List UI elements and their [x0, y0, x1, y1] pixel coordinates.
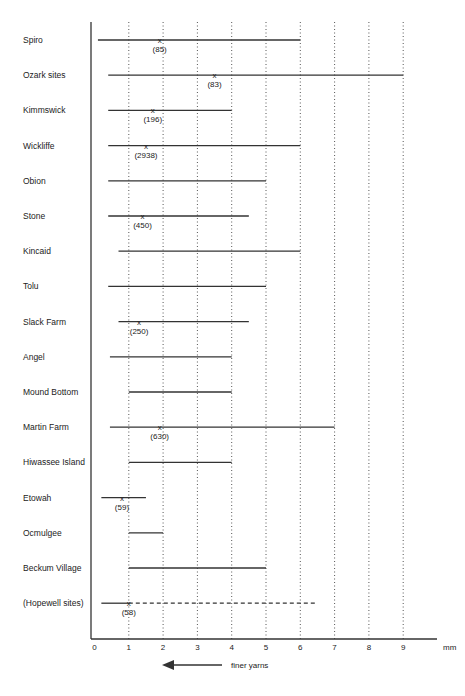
left-arrow-icon [162, 660, 174, 670]
site-label: Tolu [23, 281, 39, 291]
site-row: Slack Farmx(250) [23, 317, 249, 336]
x-tick-label: 5 [264, 643, 269, 652]
finer-yarns-label: finer yarns [231, 661, 268, 670]
site-label: Kincaid [23, 246, 51, 256]
x-axis-ticks: 0123456789 [92, 643, 406, 652]
site-row: Ocmulgee [23, 528, 163, 538]
site-row: Stonex(450) [23, 211, 249, 230]
site-label: (Hopewell sites) [23, 598, 84, 608]
site-rows: Spirox(85)Ozark sitesx(83)Kimmswickx(196… [23, 35, 403, 617]
site-row: Wickliffex(2938) [23, 141, 300, 160]
site-label: Kimmswick [23, 105, 66, 115]
mean-marker-icon: x [141, 212, 145, 221]
site-row: Beckum Village [23, 563, 266, 573]
x-tick-label: 7 [332, 643, 337, 652]
site-row: Kimmswickx(196) [23, 105, 232, 124]
sample-count-label: (85) [153, 45, 168, 54]
site-label: Etowah [23, 493, 52, 503]
site-label: Angel [23, 352, 45, 362]
sample-count-label: (450) [133, 221, 152, 230]
site-label: Ocmulgee [23, 528, 62, 538]
site-row: Obion [23, 176, 266, 186]
x-tick-label: 2 [161, 643, 166, 652]
site-row: Tolu [23, 281, 266, 291]
site-label: Beckum Village [23, 563, 82, 573]
mean-marker-icon: x [158, 423, 162, 432]
site-row: Spirox(85) [23, 35, 300, 54]
site-row: (Hopewell sites)x(58) [23, 598, 317, 617]
site-label: Slack Farm [23, 317, 66, 327]
x-tick-label: 4 [229, 643, 234, 652]
sample-count-label: (196) [143, 115, 162, 124]
site-label: Hiwassee Island [23, 457, 85, 467]
site-row: Martin Farmx(630) [23, 422, 335, 441]
x-axis-unit-label: mm [443, 643, 457, 652]
sample-count-label: (59) [115, 503, 130, 512]
mean-marker-icon: x [151, 106, 155, 115]
site-label: Obion [23, 176, 46, 186]
x-tick-label: 0 [92, 643, 97, 652]
site-row: Angel [23, 352, 232, 362]
finer-yarns-legend: finer yarns [162, 660, 268, 670]
x-tick-label: 8 [367, 643, 372, 652]
sample-count-label: (2938) [134, 151, 157, 160]
sample-count-label: (58) [122, 608, 137, 617]
site-row: Mound Bottom [23, 387, 232, 397]
site-label: Spiro [23, 35, 43, 45]
site-label: Wickliffe [23, 141, 55, 151]
x-tick-label: 9 [401, 643, 406, 652]
site-label: Stone [23, 211, 45, 221]
site-row: Ozark sitesx(83) [23, 70, 403, 89]
mean-marker-icon: x [144, 142, 148, 151]
mean-marker-icon: x [158, 36, 162, 45]
yarn-diameter-range-chart: Spirox(85)Ozark sitesx(83)Kimmswickx(196… [0, 0, 465, 696]
site-label: Martin Farm [23, 422, 69, 432]
grid-lines [129, 22, 403, 639]
site-label: Ozark sites [23, 70, 66, 80]
mean-marker-icon: x [120, 494, 124, 503]
site-label: Mound Bottom [23, 387, 78, 397]
mean-marker-icon: x [137, 318, 141, 327]
x-tick-label: 3 [195, 643, 200, 652]
sample-count-label: (630) [150, 432, 169, 441]
x-tick-label: 1 [127, 643, 132, 652]
x-tick-label: 6 [298, 643, 303, 652]
mean-marker-icon: x [127, 599, 131, 608]
sample-count-label: (250) [130, 327, 149, 336]
mean-marker-icon: x [213, 71, 217, 80]
sample-count-label: (83) [207, 80, 222, 89]
site-row: Hiwassee Island [23, 457, 232, 467]
site-row: Etowahx(59) [23, 493, 146, 512]
site-row: Kincaid [23, 246, 300, 256]
